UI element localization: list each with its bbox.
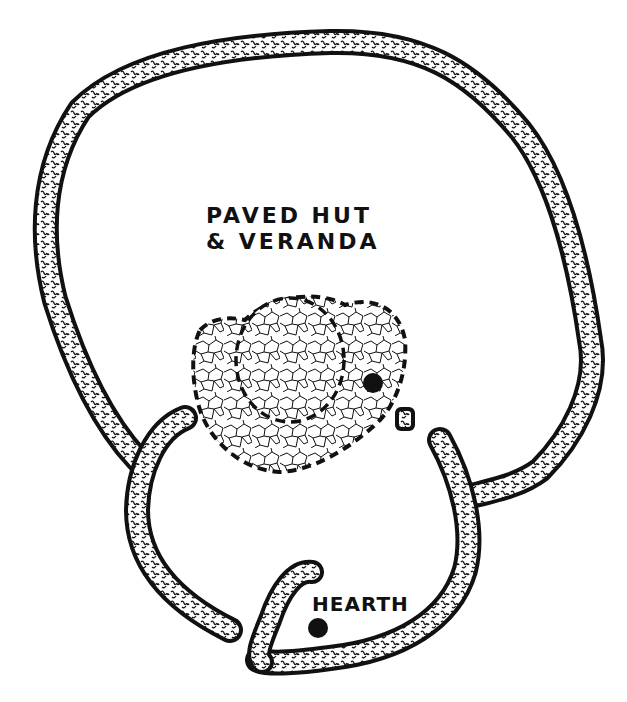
post-hole [363,373,383,393]
paved-hut-floor [236,298,344,422]
inner-enclosure-wall-left [137,418,230,630]
stone-block [395,407,415,431]
paved-hut-label-line1: PAVED HUT [206,203,380,229]
paved-hut-label: PAVED HUT & VERANDA [206,203,380,255]
hearth-dot [308,618,328,638]
hearth-label: HEARTH [312,591,409,617]
inner-enclosure-wall-right [258,440,468,663]
paved-hut-label-line2: & VERANDA [206,229,380,255]
